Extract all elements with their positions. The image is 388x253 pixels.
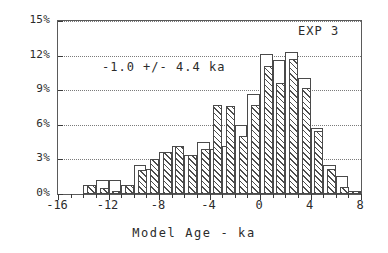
- x-tick-label--12: -12: [97, 198, 119, 212]
- gridline-y-6%: [58, 125, 361, 126]
- x-tick--3: [222, 194, 223, 198]
- bar-hatched: [226, 106, 235, 194]
- bar-hatched: [251, 105, 260, 194]
- x-tick-label-4: 4: [306, 198, 313, 212]
- y-tick-label-12%: 12%: [0, 48, 50, 61]
- x-tick--7: [172, 194, 173, 198]
- x-tick-3: [298, 194, 299, 198]
- bar-hatched: [264, 66, 273, 194]
- gridline-y-9%: [58, 90, 361, 91]
- y-tick-label-0%: 0%: [0, 186, 50, 199]
- plot-area: [57, 20, 362, 195]
- bar-hatched: [112, 191, 121, 194]
- x-tick-label-0: 0: [255, 198, 262, 212]
- y-tick-15%: [58, 21, 63, 22]
- y-tick-6%: [58, 125, 63, 126]
- bar-hatched: [327, 169, 336, 194]
- x-tick--10: [134, 194, 135, 198]
- bar-hatched: [213, 105, 222, 194]
- bar-hatched: [201, 149, 210, 194]
- x-tick--2: [235, 194, 236, 198]
- x-tick--5: [197, 194, 198, 198]
- x-tick-label-8: 8: [356, 198, 363, 212]
- bar-hatched: [276, 83, 285, 194]
- x-tick-label--4: -4: [201, 198, 215, 212]
- x-tick-7: [348, 194, 349, 198]
- x-tick--14: [83, 194, 84, 198]
- y-tick-label-15%: 15%: [0, 13, 50, 26]
- bar-hatched: [100, 188, 109, 194]
- bar-hatched: [138, 170, 147, 194]
- y-tick-label-6%: 6%: [0, 117, 50, 130]
- bar-hatched: [87, 185, 96, 194]
- x-tick-label--8: -8: [151, 198, 165, 212]
- bar-hatched: [188, 155, 197, 194]
- y-tick-9%: [58, 90, 63, 91]
- x-tick-label--16: -16: [46, 198, 68, 212]
- x-axis-title: Model Age - ka: [0, 226, 388, 240]
- x-tick-2: [285, 194, 286, 198]
- bar-hatched: [125, 185, 134, 194]
- x-tick--9: [146, 194, 147, 198]
- x-tick--1: [247, 194, 248, 198]
- bar-hatched: [175, 146, 184, 194]
- gridline-y-15%: [58, 21, 361, 22]
- y-tick-label-9%: 9%: [0, 82, 50, 95]
- x-tick--6: [184, 194, 185, 198]
- bar-hatched: [239, 136, 248, 194]
- y-tick-0%: [58, 194, 63, 195]
- bar-hatched: [314, 131, 323, 194]
- bar-hatched: [352, 191, 361, 194]
- bar-hatched: [340, 187, 349, 194]
- mean-uncertainty-label: -1.0 +/- 4.4 ka: [102, 60, 225, 74]
- experiment-label: EXP 3: [298, 24, 339, 38]
- bar-hatched: [163, 152, 172, 194]
- bar-hatched: [289, 59, 298, 194]
- bar-hatched: [302, 88, 311, 194]
- x-tick-5: [323, 194, 324, 198]
- bar-hatched: [150, 159, 159, 194]
- histogram-figure: 0%3%6%9%12%15% -16-12-8-4048 EXP 3 -1.0 …: [0, 0, 388, 253]
- x-tick-6: [336, 194, 337, 198]
- y-tick-label-3%: 3%: [0, 151, 50, 164]
- x-tick-1: [273, 194, 274, 198]
- gridline-y-12%: [58, 56, 361, 57]
- y-tick-12%: [58, 56, 63, 57]
- x-tick--15: [71, 194, 72, 198]
- x-tick--11: [121, 194, 122, 198]
- y-tick-3%: [58, 159, 63, 160]
